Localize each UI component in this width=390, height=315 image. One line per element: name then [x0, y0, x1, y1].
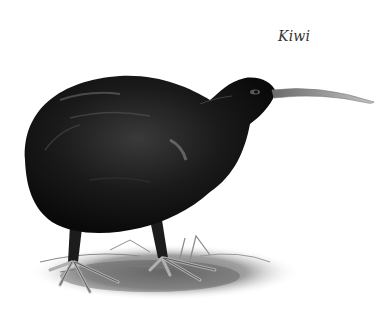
kiwi-body [25, 76, 276, 233]
kiwi-beak [272, 89, 374, 104]
kiwi-eye [250, 90, 260, 95]
kiwi-illustration-page: Kiwi [0, 0, 390, 315]
kiwi-bird-illustration [0, 0, 390, 315]
